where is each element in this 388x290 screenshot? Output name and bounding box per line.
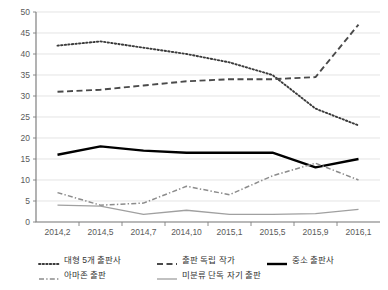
series-line-4	[58, 205, 359, 214]
y-axis-tick-label: 0	[25, 217, 30, 227]
x-axis-tick-label: 2015,9	[303, 227, 329, 237]
legend-swatch-dotted-icon	[38, 259, 60, 269]
x-axis-tick-label: 2014,10	[171, 227, 202, 237]
legend-line-icon	[156, 270, 178, 280]
legend-line-icon	[38, 270, 60, 280]
y-axis-tick-label: 35	[21, 70, 31, 80]
chart-canvas: 05101520253035404550 2014,22014,52014,72…	[0, 0, 388, 250]
series-line-3	[58, 163, 359, 205]
y-axis-tick-label: 25	[21, 112, 31, 122]
legend-item[interactable]: 미분류 단독 자기 출판	[156, 270, 266, 280]
legend-swatch-dash-dot-icon	[38, 274, 60, 284]
chart-legend: 대형 5개 출판사출판 독립 작가중소 출판사 아마존 출판미분류 단독 자기 …	[0, 250, 388, 290]
legend-item[interactable]: 대형 5개 출판사	[38, 255, 156, 265]
x-axis-tick-label: 2014,2	[45, 227, 71, 237]
legend-item-label: 출판 독립 작가	[182, 255, 235, 265]
x-axis-labels: 2014,22014,52014,72014,102015,12015,5201…	[45, 222, 372, 237]
x-axis-tick-label: 2014,7	[131, 227, 157, 237]
legend-item-label: 대형 5개 출판사	[64, 255, 121, 265]
x-axis-tick-label: 2015,1	[217, 227, 243, 237]
legend-line-icon	[266, 255, 288, 265]
y-axis-tick-label: 30	[21, 91, 31, 101]
legend-line-icon	[38, 255, 60, 265]
legend-item-label: 아마존 출판	[64, 270, 106, 280]
legend-swatch-solid-thick-icon	[266, 259, 288, 269]
y-axis-tick-label: 45	[21, 28, 31, 38]
legend-item-label: 미분류 단독 자기 출판	[182, 270, 261, 280]
y-axis-tick-label: 50	[21, 7, 31, 17]
line-chart: 05101520253035404550 2014,22014,52014,72…	[0, 0, 388, 290]
y-axis-tick-label: 15	[21, 154, 31, 164]
y-axis-tick-label: 10	[21, 175, 31, 185]
legend-item[interactable]: 아마존 출판	[38, 270, 156, 280]
legend-item[interactable]: 출판 독립 작가	[156, 255, 266, 265]
legend-item-label: 중소 출판사	[292, 255, 334, 265]
y-axis-tick-label: 40	[21, 49, 31, 59]
x-axis-tick-label: 2015,5	[260, 227, 286, 237]
legend-item[interactable]: 중소 출판사	[266, 255, 386, 265]
legend-swatch-dashed-icon	[156, 259, 178, 269]
y-axis-labels: 05101520253035404550	[21, 7, 36, 227]
y-axis-tick-label: 20	[21, 133, 31, 143]
x-axis-tick-label: 2016,1	[346, 227, 372, 237]
y-axis-tick-label: 5	[25, 196, 30, 206]
legend-swatch-solid-thin-icon	[156, 274, 178, 284]
x-axis-tick-label: 2014,5	[88, 227, 114, 237]
chart-plot-area: 05101520253035404550 2014,22014,52014,72…	[0, 0, 388, 250]
legend-row: 아마존 출판미분류 단독 자기 출판	[38, 267, 388, 282]
data-series-group	[58, 25, 359, 215]
legend-line-icon	[156, 255, 178, 265]
legend-row: 대형 5개 출판사출판 독립 작가중소 출판사	[38, 252, 388, 267]
